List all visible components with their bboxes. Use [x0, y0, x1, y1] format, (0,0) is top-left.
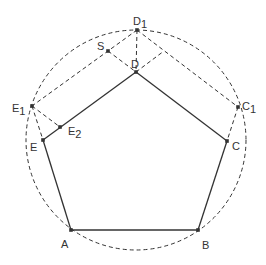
point-labels: ABCDED1C1E1E2S	[12, 15, 256, 251]
pentagon-diagram: ABCDED1C1E1E2S	[0, 0, 266, 265]
label-C1: C1	[242, 100, 256, 115]
label-E2: E2	[68, 125, 81, 140]
label-D: D	[131, 58, 139, 70]
point-D1	[135, 28, 139, 32]
label-D1: D1	[133, 15, 147, 30]
point-D	[134, 70, 138, 74]
point-C1	[236, 105, 240, 109]
edge-C-D	[136, 72, 227, 141]
edge-B-C	[198, 141, 227, 230]
dashed-line-E1-E	[32, 106, 43, 140]
label-S: S	[97, 40, 104, 52]
dashed-line-C1-C	[227, 107, 238, 141]
point-A	[69, 228, 73, 232]
label-B: B	[202, 239, 209, 251]
dashed-line-D1-E1	[32, 30, 137, 106]
dashed-line-E1-E2	[32, 106, 60, 127]
label-E: E	[30, 141, 37, 153]
point-S	[106, 49, 110, 53]
point-E	[41, 138, 45, 142]
pentagon-edges	[43, 72, 227, 230]
point-C	[225, 139, 229, 143]
point-B	[196, 228, 200, 232]
dashed-line-D-T	[136, 51, 164, 72]
point-E1	[30, 104, 34, 108]
point-E2	[58, 125, 62, 129]
construction-lines	[32, 30, 238, 141]
edge-D-E	[43, 72, 136, 140]
dashed-line-D1-C1	[137, 30, 238, 107]
label-C: C	[232, 140, 240, 152]
label-A: A	[61, 238, 69, 250]
label-E1: E1	[12, 102, 25, 117]
